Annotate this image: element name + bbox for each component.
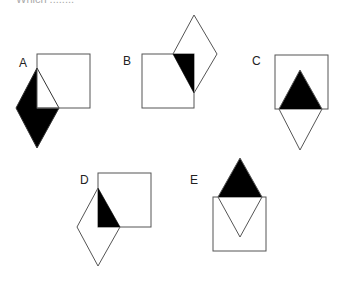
figure-a-square (37, 54, 90, 108)
figure-b: B (123, 15, 217, 108)
figure-d-label: D (80, 173, 89, 187)
figure-d: D (77, 173, 151, 266)
figure-b-label: B (123, 54, 131, 68)
figure-e-black-triangle (218, 158, 262, 197)
figure-e: E (190, 158, 266, 251)
figure-a-label: A (19, 56, 27, 70)
figure-c: C (252, 54, 328, 150)
figures-canvas: A B C D E (0, 0, 337, 282)
figure-c-black-triangle (279, 70, 322, 109)
figure-a: A (16, 54, 90, 148)
figure-c-label: C (252, 54, 261, 68)
figure-e-label: E (190, 173, 198, 187)
